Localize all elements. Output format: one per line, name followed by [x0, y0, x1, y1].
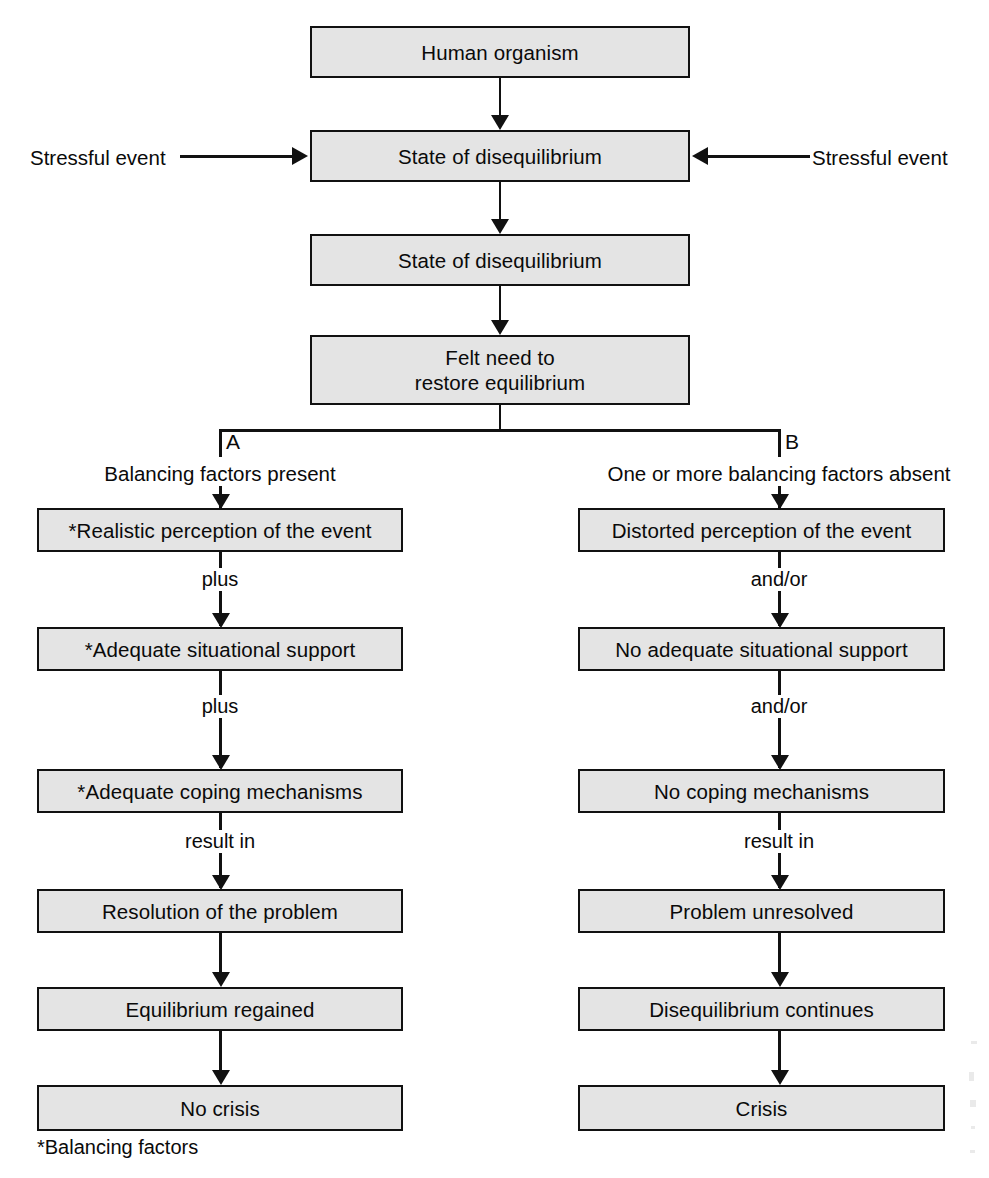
connector-feltneed-split-stem [499, 405, 502, 431]
label-stressful-event-left: Stressful event [30, 146, 166, 171]
scan-artifact [970, 1150, 975, 1153]
node-disequilibrium-continues: Disequilibrium continues [578, 987, 945, 1031]
arrowhead-b3-b4 [771, 875, 789, 890]
arrowhead-a2-a3 [212, 755, 230, 770]
node-equilibrium-regained: Equilibrium regained [37, 987, 403, 1031]
arrowhead-a3-a4 [212, 875, 230, 890]
node-adequate-coping-mechanisms: *Adequate coping mechanisms [37, 769, 403, 813]
connector-label-a3-a4: result in [181, 830, 259, 853]
branch-letter-a: A [226, 430, 240, 454]
connector-stressful-event-left [180, 155, 294, 158]
connector-state1-to-state2 [499, 182, 502, 224]
label-stressful-event-right: Stressful event [812, 146, 948, 171]
connector-a5-a6 [219, 1031, 222, 1075]
connector-b2-b3 [778, 671, 781, 768]
arrowhead-a1-a2 [212, 613, 230, 628]
arrowhead-stressful-event-right [692, 147, 708, 165]
scan-artifact [971, 1041, 977, 1044]
connector-label-a1-a2: plus [198, 568, 243, 591]
connector-label-a2-a3: plus [198, 695, 243, 718]
scan-artifact [969, 1072, 974, 1081]
node-realistic-perception: *Realistic perception of the event [37, 508, 403, 552]
node-no-coping-mechanisms: No coping mechanisms [578, 769, 945, 813]
scan-artifact [970, 1100, 976, 1107]
branch-letter-b: B [785, 430, 799, 454]
arrowhead-a5-a6 [212, 1070, 230, 1085]
arrowhead-human-to-state1 [491, 115, 509, 130]
connector-b4-b5 [778, 933, 781, 977]
footnote-balancing-factors: *Balancing factors [37, 1136, 198, 1159]
node-no-adequate-situational-support: No adequate situational support [578, 627, 945, 671]
branch-heading-b: One or more balancing factors absent [608, 462, 951, 487]
arrowhead-state2-to-feltneed [491, 320, 509, 335]
connector-a4-a5 [219, 933, 222, 977]
connector-split-right-drop [778, 429, 781, 457]
connector-stressful-event-right [706, 155, 810, 158]
node-state-of-disequilibrium-2: State of disequilibrium [310, 234, 690, 286]
connector-b5-b6 [778, 1031, 781, 1075]
arrowhead-b5-b6 [771, 1070, 789, 1085]
node-felt-need: Felt need to restore equilibrium [310, 335, 690, 405]
node-adequate-situational-support: *Adequate situational support [37, 627, 403, 671]
connector-label-b1-b2: and/or [747, 568, 812, 591]
arrowhead-stressful-event-left [292, 147, 308, 165]
arrowhead-state1-to-state2 [491, 219, 509, 234]
node-distorted-perception: Distorted perception of the event [578, 508, 945, 552]
node-problem-unresolved: Problem unresolved [578, 889, 945, 933]
connector-label-b2-b3: and/or [747, 695, 812, 718]
node-crisis: Crisis [578, 1085, 945, 1131]
arrowhead-branch-b-to-node1 [771, 494, 789, 509]
arrowhead-a4-a5 [212, 972, 230, 987]
arrowhead-b1-b2 [771, 613, 789, 628]
node-no-crisis: No crisis [37, 1085, 403, 1131]
node-state-of-disequilibrium-1: State of disequilibrium [310, 130, 690, 182]
node-human-organism: Human organism [310, 26, 690, 78]
arrowhead-branch-a-to-node1 [212, 494, 230, 509]
connector-label-b3-b4: result in [740, 830, 818, 853]
node-resolution-of-the-problem: Resolution of the problem [37, 889, 403, 933]
arrowhead-b4-b5 [771, 972, 789, 987]
arrowhead-b2-b3 [771, 755, 789, 770]
connector-split-left-drop [219, 429, 222, 457]
flowchart-canvas: Human organism State of disequilibrium S… [0, 0, 989, 1178]
scan-artifact [971, 1126, 975, 1129]
connector-human-to-state1 [499, 78, 502, 120]
connector-a2-a3 [219, 671, 222, 768]
branch-heading-a: Balancing factors present [104, 462, 335, 487]
connector-split-horizontal [219, 429, 780, 432]
